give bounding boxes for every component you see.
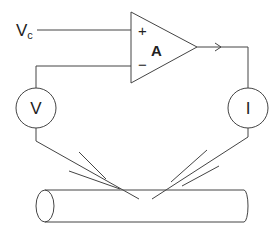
right-probe-taper-1 — [171, 150, 207, 182]
output-wire — [197, 47, 248, 88]
circuit-diagram: Vc + − A V I — [0, 0, 276, 234]
minus-sign: − — [138, 56, 147, 73]
voltmeter-label: V — [30, 99, 42, 118]
plus-sign: + — [138, 22, 147, 39]
left-probe-taper-1 — [79, 152, 106, 179]
cylinder-sample — [36, 190, 248, 222]
amplifier-label: A — [151, 42, 162, 59]
feedback-wire — [36, 66, 131, 88]
vc-label: Vc — [16, 21, 33, 41]
right-probe-wire — [152, 128, 248, 199]
ammeter-label: I — [246, 99, 251, 118]
left-probe-wire — [36, 128, 139, 199]
